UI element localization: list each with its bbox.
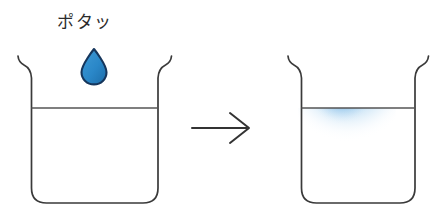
diffusion-diagram: ポタッ — [0, 0, 444, 215]
droplet-shape — [82, 49, 107, 84]
ink-droplet — [82, 49, 107, 84]
transition-arrow — [192, 113, 249, 143]
drip-sound-label: ポタッ — [57, 14, 113, 31]
dye-cloud-inner — [311, 80, 377, 148]
diagram-canvas — [0, 0, 444, 215]
beaker-after — [288, 56, 429, 203]
dye-diffusion-plume — [298, 62, 396, 162]
